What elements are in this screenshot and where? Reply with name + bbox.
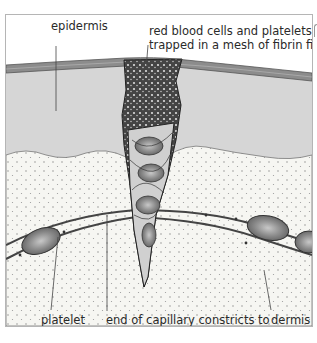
clot-label-line2: trapped in a mesh of fibrin fibres bbox=[149, 38, 313, 53]
clot-label-line1: red blood cells and platelets bbox=[149, 24, 312, 39]
capillary-label-line1: end of capillary constricts to bbox=[106, 313, 270, 327]
diagram-frame: epidermis red blood cells and platelets … bbox=[5, 14, 313, 327]
platelet-label: platelet bbox=[41, 313, 85, 327]
skin-wound-illustration bbox=[6, 15, 312, 326]
page-edge-mark bbox=[314, 24, 317, 37]
dermis-label: dermis bbox=[271, 313, 310, 327]
epidermis-label: epidermis bbox=[51, 19, 108, 34]
